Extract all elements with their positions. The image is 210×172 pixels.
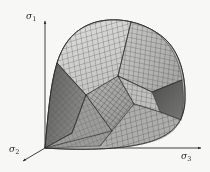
sigma-1-subscript: 1 — [32, 15, 36, 23]
sigma-2-axis-label: σ2 — [9, 145, 19, 155]
stress-surface-figure: σ1 σ2 σ3 — [0, 0, 210, 172]
sigma-3-subscript: 3 — [187, 155, 191, 163]
surface-plot-canvas — [0, 0, 210, 172]
sigma-2-axis-line — [23, 148, 45, 161]
sigma-1-axis-label: σ1 — [26, 12, 36, 22]
yield-surface-body — [45, 20, 185, 150]
sigma-3-axis-label: σ3 — [181, 152, 191, 162]
sigma-2-subscript: 2 — [15, 148, 19, 156]
